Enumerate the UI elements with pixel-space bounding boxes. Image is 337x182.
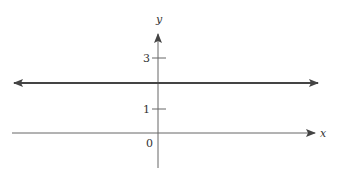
origin-label: 0 <box>146 137 153 150</box>
x-axis-label: x <box>320 127 327 140</box>
tick-label-1: 1 <box>143 103 150 116</box>
coordinate-plane: y x 3 1 0 <box>0 0 337 182</box>
y-axis-label: y <box>155 13 163 26</box>
tick-label-3: 3 <box>143 52 150 65</box>
